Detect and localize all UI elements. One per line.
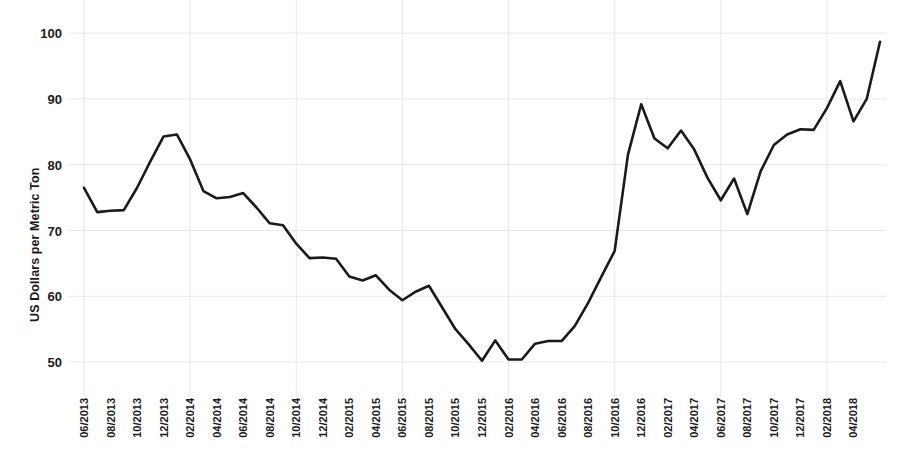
x-axis-tick-12-2016: 12/2016 bbox=[635, 398, 647, 438]
x-axis-tick-02-2015: 02/2015 bbox=[343, 398, 355, 438]
line-chart-svg bbox=[68, 20, 886, 395]
x-axis-tick-12-2015: 12/2015 bbox=[476, 398, 488, 438]
x-axis-tick-06-2017: 06/2017 bbox=[715, 398, 727, 438]
x-axis-tick-06-2016: 06/2016 bbox=[556, 398, 568, 438]
data-series-line bbox=[84, 42, 880, 361]
x-axis-tick-02-2017: 02/2017 bbox=[662, 398, 674, 438]
x-axis-tick-12-2017: 12/2017 bbox=[794, 398, 806, 438]
x-axis-tick-04-2017: 04/2017 bbox=[688, 398, 700, 438]
x-axis-tick-06-2015: 06/2015 bbox=[396, 398, 408, 438]
x-axis-tick-08-2016: 08/2016 bbox=[582, 398, 594, 438]
x-axis-tick-08-2013: 08/2013 bbox=[105, 398, 117, 438]
x-axis-tick-08-2014: 08/2014 bbox=[264, 398, 276, 438]
plot-area bbox=[68, 20, 886, 395]
gridlines bbox=[68, 0, 886, 397]
y-axis-tick-100: 100 bbox=[22, 26, 62, 41]
x-axis-tick-08-2015: 08/2015 bbox=[423, 398, 435, 438]
x-axis-tick-02-2016: 02/2016 bbox=[503, 398, 515, 438]
y-axis-tick-90: 90 bbox=[22, 91, 62, 106]
x-axis-tick-12-2014: 12/2014 bbox=[317, 398, 329, 438]
x-axis-tick-08-2017: 08/2017 bbox=[741, 398, 753, 438]
x-axis-tick-06-2014: 06/2014 bbox=[237, 398, 249, 438]
x-axis-tick-10-2016: 10/2016 bbox=[609, 398, 621, 438]
x-axis-tick-10-2014: 10/2014 bbox=[290, 398, 302, 438]
y-axis-tick-70: 70 bbox=[22, 223, 62, 238]
y-axis-tick-60: 60 bbox=[22, 289, 62, 304]
chart-container: US Dollars per Metric Ton 5060708090100 … bbox=[0, 0, 902, 474]
y-axis-tick-80: 80 bbox=[22, 157, 62, 172]
x-axis-tick-10-2013: 10/2013 bbox=[131, 398, 143, 438]
x-axis-tick-12-2013: 12/2013 bbox=[158, 398, 170, 438]
x-axis-tick-04-2015: 04/2015 bbox=[370, 398, 382, 438]
x-axis-tick-labels: 06/201308/201310/201312/201302/201404/20… bbox=[68, 398, 886, 474]
y-axis-tick-labels: 5060708090100 bbox=[22, 0, 62, 474]
y-axis-tick-50: 50 bbox=[22, 355, 62, 370]
x-axis-tick-04-2016: 04/2016 bbox=[529, 398, 541, 438]
x-axis-tick-02-2014: 02/2014 bbox=[184, 398, 196, 438]
x-axis-tick-06-2013: 06/2013 bbox=[78, 398, 90, 438]
x-axis-tick-04-2018: 04/2018 bbox=[847, 398, 859, 438]
x-axis-tick-04-2014: 04/2014 bbox=[211, 398, 223, 438]
x-axis-tick-10-2017: 10/2017 bbox=[768, 398, 780, 438]
x-axis-tick-02-2018: 02/2018 bbox=[821, 398, 833, 438]
x-axis-tick-10-2015: 10/2015 bbox=[449, 398, 461, 438]
